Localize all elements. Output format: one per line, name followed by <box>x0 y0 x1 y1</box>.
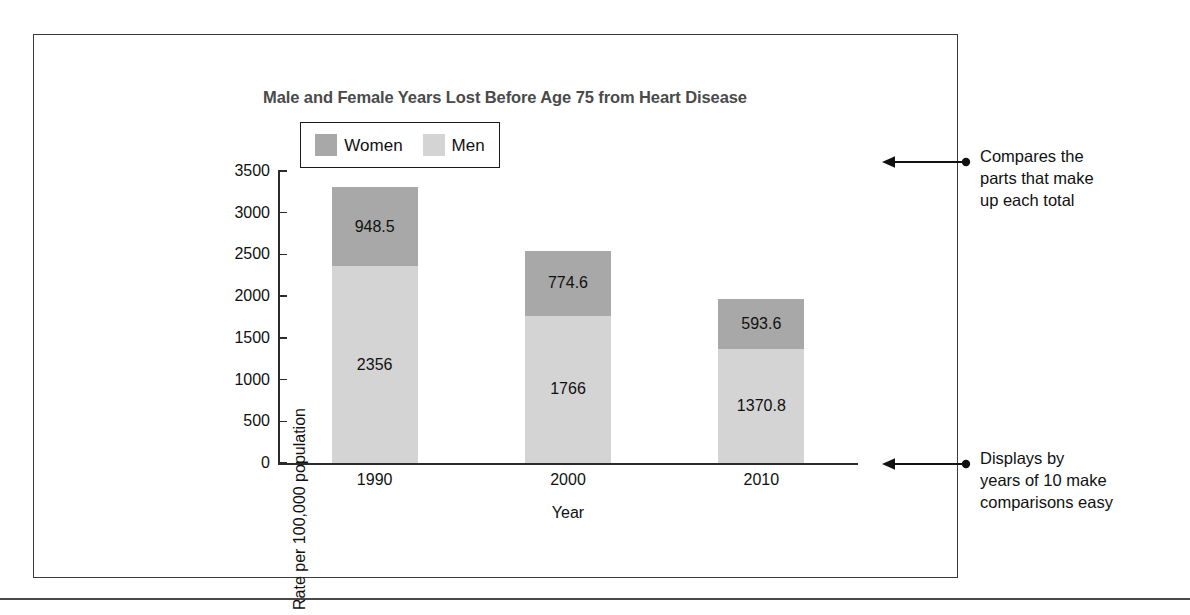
bar-segment-women[interactable]: 774.6 <box>525 251 611 316</box>
y-axis-title-wrap: Rate per 100,000 population <box>175 190 205 450</box>
legend-label-women: Women <box>344 137 402 154</box>
bar-value-label: 774.6 <box>548 275 588 291</box>
bar-group[interactable]: 1370.8593.6 <box>718 171 804 463</box>
annotation-top-line-3: up each total <box>980 190 1190 212</box>
x-axis-line <box>278 463 858 465</box>
y-axis-tick-label: 0 <box>210 455 270 471</box>
y-axis-tick-label: 3000 <box>210 205 270 221</box>
bar-group[interactable]: 2356948.5 <box>332 171 418 463</box>
bar-segment-men[interactable]: 2356 <box>332 266 418 463</box>
legend-entry-men: Men <box>423 134 485 156</box>
bar-segment-women[interactable]: 593.6 <box>718 299 804 349</box>
y-axis-tick-label: 2500 <box>210 246 270 262</box>
annotation-arrow-top <box>882 153 974 171</box>
chart-legend: Women Men <box>300 122 500 168</box>
legend-swatch-women <box>315 134 337 156</box>
bar-segment-men[interactable]: 1370.8 <box>718 349 804 463</box>
bar-segment-men[interactable]: 1766 <box>525 316 611 463</box>
x-axis-tick-label: 2000 <box>513 472 623 488</box>
bar-value-label: 948.5 <box>355 219 395 235</box>
x-axis-tick-label: 1990 <box>320 472 430 488</box>
x-axis-title: Year <box>278 504 858 522</box>
bar-value-label: 593.6 <box>741 316 781 332</box>
annotation-top-line-1: Compares the <box>980 146 1190 168</box>
y-axis-tick-label: 500 <box>210 413 270 429</box>
y-axis-tick-label: 1000 <box>210 372 270 388</box>
x-axis-tick-label: 2010 <box>706 472 816 488</box>
y-axis-tick-label: 2000 <box>210 288 270 304</box>
legend-swatch-men <box>423 134 445 156</box>
chart-title: Male and Female Years Lost Before Age 75… <box>225 88 785 107</box>
annotation-bottom-line-3: comparisons easy <box>980 492 1190 514</box>
annotation-bottom-text: Displays by years of 10 make comparisons… <box>980 448 1190 513</box>
legend-label-men: Men <box>452 137 485 154</box>
bar-value-label: 1766 <box>550 381 586 397</box>
bar-group[interactable]: 1766774.6 <box>525 171 611 463</box>
bottom-horizontal-rule <box>0 598 1190 600</box>
y-axis-tick-labels: 0500100015002000250030003500 <box>208 0 270 615</box>
annotation-bottom-line-2: years of 10 make <box>980 470 1190 492</box>
bar-value-label: 2356 <box>357 357 393 373</box>
legend-entry-women: Women <box>315 134 402 156</box>
bar-segment-women[interactable]: 948.5 <box>332 187 418 266</box>
bar-value-label: 1370.8 <box>737 398 786 414</box>
annotation-top-line-2: parts that make <box>980 168 1190 190</box>
plot-area: 2356948.51766774.61370.8593.6 <box>278 171 858 463</box>
annotation-bottom-line-1: Displays by <box>980 448 1190 470</box>
y-axis-tick-label: 3500 <box>210 163 270 179</box>
y-axis-tick-label: 1500 <box>210 330 270 346</box>
annotation-arrow-bottom <box>882 455 974 473</box>
annotation-top-text: Compares the parts that make up each tot… <box>980 146 1190 211</box>
